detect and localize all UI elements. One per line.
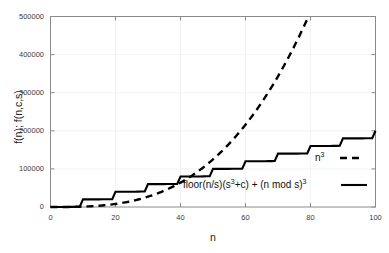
x-tick-label: 100 [356,213,389,222]
y-axis-label: f(n); f(n,c,s) [12,62,24,172]
x-tick-label: 60 [226,213,266,222]
x-tick-label: 80 [291,213,331,222]
legend-entry-blocked: floor(n/s)(s3+c) + (n mod s)3 [183,179,306,190]
x-tick-label: 0 [31,213,71,222]
x-tick-label: 40 [161,213,201,222]
x-tick-label: 20 [96,213,136,222]
y-tick-label: 0 [0,202,44,211]
y-tick-label: 200000 [0,126,44,135]
y-tick-label: 100000 [0,164,44,173]
chart-figure: f(n); f(n,c,s) n 01000002000003000004000… [0,0,389,253]
y-tick-label: 400000 [0,50,44,59]
y-tick-label: 300000 [0,88,44,97]
y-tick-label: 500000 [0,12,44,21]
x-axis-label: n [50,231,376,243]
legend-entry-n-cubed: n3 [315,152,324,163]
